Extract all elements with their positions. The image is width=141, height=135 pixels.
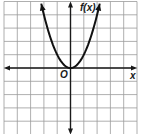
y-axis-label: f(x)	[80, 2, 96, 13]
x-axis-left-arrow-icon	[4, 66, 10, 71]
origin-label: O	[60, 69, 68, 80]
y-axis-down-arrow-icon	[68, 129, 73, 135]
x-axis-label: x	[129, 70, 136, 81]
coordinate-plane: f(x) x O	[0, 0, 141, 134]
y-axis-up-arrow-icon	[68, 2, 73, 8]
